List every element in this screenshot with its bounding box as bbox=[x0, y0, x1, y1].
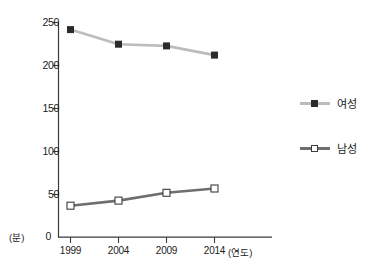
x-tick-label-2004: 2004 bbox=[96, 245, 142, 256]
y-tick-label-150: 150 bbox=[25, 103, 59, 113]
legend-swatch-female-icon bbox=[300, 98, 330, 108]
legend-label-male: 남성 bbox=[337, 140, 357, 156]
data-point-female-2009 bbox=[163, 42, 170, 49]
y-axis-unit-label: (분) bbox=[9, 230, 24, 244]
data-point-male-1999 bbox=[67, 202, 74, 209]
line-chart: 250 200 150 100 50 0 (분) 1999 2004 2009 … bbox=[0, 0, 375, 273]
data-point-male-2009 bbox=[163, 189, 170, 196]
chart-legend: 여성 남성 bbox=[300, 96, 372, 186]
y-tick-label-50: 50 bbox=[25, 189, 59, 199]
legend-item-female: 여성 bbox=[300, 96, 372, 110]
legend-label-female: 여성 bbox=[337, 95, 357, 111]
x-tick-label-2009: 2009 bbox=[144, 245, 190, 256]
series-markers-female bbox=[67, 26, 218, 59]
x-axis-ticks bbox=[71, 237, 215, 243]
legend-item-male: 남성 bbox=[300, 141, 372, 155]
data-point-male-2004 bbox=[115, 197, 122, 204]
legend-swatch-male-icon bbox=[300, 143, 330, 153]
y-tick-label-0: 0 bbox=[25, 231, 51, 241]
data-point-female-2004 bbox=[115, 41, 122, 48]
y-tick-label-200: 200 bbox=[25, 60, 59, 70]
data-point-female-2014 bbox=[211, 52, 218, 59]
data-point-male-2014 bbox=[211, 185, 218, 192]
series-line-male bbox=[71, 189, 215, 206]
y-tick-label-100: 100 bbox=[25, 146, 59, 156]
series-line-female bbox=[71, 30, 215, 55]
y-tick-label-250: 250 bbox=[25, 17, 59, 27]
x-tick-label-1999: 1999 bbox=[48, 245, 94, 256]
x-axis-unit-label: (연도) bbox=[228, 245, 252, 259]
data-point-female-1999 bbox=[67, 26, 74, 33]
